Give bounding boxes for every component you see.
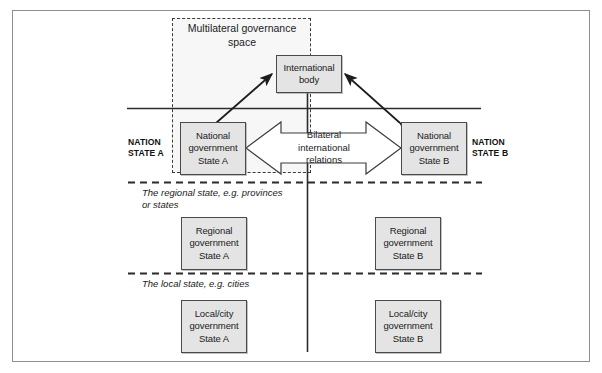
label-nation-state-b: NATION STATE B	[472, 137, 530, 158]
node-local-government-state-b-label: Local/city government State B	[376, 308, 440, 345]
arrow-natgov-b-to-international-body	[345, 74, 400, 123]
node-local-government-state-a[interactable]: Local/city government State A	[181, 300, 247, 353]
bilateral-relations-label: Bilateral international relations	[281, 129, 367, 167]
node-national-government-state-a[interactable]: National government State A	[180, 122, 246, 175]
node-national-government-state-b[interactable]: National government State B	[401, 122, 467, 175]
label-nation-state-a: NATION STATE A	[128, 137, 178, 158]
node-regional-government-state-b-label: Regional government State B	[376, 225, 440, 262]
arrow-natgov-a-to-international-body	[216, 74, 272, 123]
node-regional-government-state-a-label: Regional government State A	[182, 225, 246, 262]
node-international-body-label: International body	[277, 62, 341, 87]
node-regional-government-state-b[interactable]: Regional government State B	[375, 217, 441, 270]
node-local-government-state-a-label: Local/city government State A	[182, 308, 246, 345]
label-local-state-zone: The local state, e.g. cities	[142, 278, 342, 290]
node-international-body[interactable]: International body	[276, 55, 342, 93]
label-regional-state-zone: The regional state, e.g. provinces or st…	[142, 187, 322, 212]
node-local-government-state-b[interactable]: Local/city government State B	[375, 300, 441, 353]
node-national-government-state-a-label: National government State A	[181, 130, 245, 167]
diagram-page: Multilateral governance space Internatio…	[0, 0, 602, 373]
node-national-government-state-b-label: National government State B	[402, 130, 466, 167]
node-regional-government-state-a[interactable]: Regional government State A	[181, 217, 247, 270]
multilateral-governance-space-label: Multilateral governance space	[176, 22, 308, 49]
